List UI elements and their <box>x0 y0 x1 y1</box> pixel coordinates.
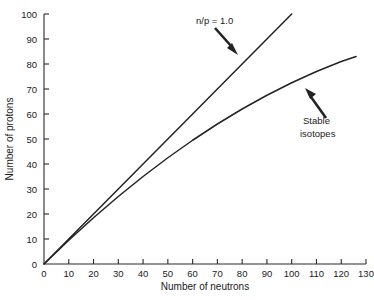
x-tick-label: 40 <box>138 268 149 279</box>
y-tick-label: 10 <box>26 234 37 245</box>
annotation-np-ratio-label: n/p = 1.0 <box>196 15 233 26</box>
x-tick-label: 90 <box>262 268 273 279</box>
y-tick-label: 50 <box>26 134 37 145</box>
y-axis-title: Number of protons <box>4 98 15 181</box>
y-tick-label: 80 <box>26 59 37 70</box>
chart-background <box>0 0 374 300</box>
x-tick-label: 0 <box>41 268 46 279</box>
annotation-stable-isotopes-label-line2: isotopes <box>300 128 336 139</box>
x-tick-label: 110 <box>309 268 324 279</box>
x-tick-label: 50 <box>163 268 174 279</box>
x-tick-label: 100 <box>284 268 300 279</box>
y-tick-label: 60 <box>26 109 37 120</box>
x-tick-label: 70 <box>212 268 223 279</box>
x-tick-label: 60 <box>187 268 198 279</box>
y-tick-label: 70 <box>26 84 37 95</box>
y-tick-label: 90 <box>26 34 37 45</box>
y-tick-label: 0 <box>32 259 37 270</box>
y-tick-label: 40 <box>26 159 37 170</box>
chart-container: 0102030405060708090100110120130 01020304… <box>0 0 374 300</box>
chart-canvas: 0102030405060708090100110120130 01020304… <box>0 0 374 300</box>
x-tick-label: 20 <box>88 268 99 279</box>
x-tick-label: 120 <box>333 268 349 279</box>
x-tick-label: 130 <box>358 268 374 279</box>
x-tick-label: 10 <box>63 268 74 279</box>
y-tick-label: 20 <box>26 209 37 220</box>
y-tick-label: 100 <box>21 9 37 20</box>
x-tick-label: 30 <box>113 268 124 279</box>
x-axis-title: Number of neutrons <box>161 281 249 292</box>
y-tick-label: 30 <box>26 184 37 195</box>
x-tick-label: 80 <box>237 268 248 279</box>
